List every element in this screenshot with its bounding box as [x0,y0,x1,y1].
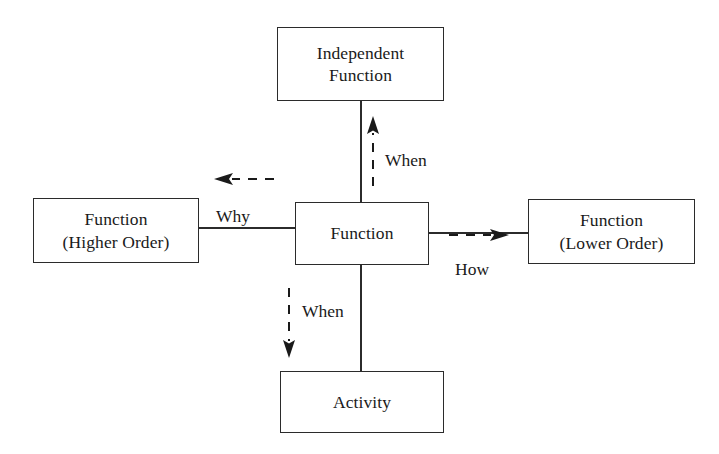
node-label-line-1: Independent [317,42,405,64]
arrow-up-dashed-icon [366,116,380,188]
edge-label-when-up: When [385,152,427,170]
node-independent-function[interactable]: Independent Function [277,27,444,101]
edge-label-when-down: When [302,303,344,321]
edge-label-how: How [455,261,489,279]
node-function-lower-order[interactable]: Function (Lower Order) [528,199,695,264]
node-label-line-2: Function [329,64,392,86]
node-label-line-2: (Higher Order) [63,231,170,253]
diagram-canvas: Independent Function Function (Higher Or… [0,0,719,454]
connector-center-to-higher-order [197,227,297,229]
node-label-line-2: (Lower Order) [560,232,664,254]
connector-center-to-independent [360,100,362,204]
node-label-line-1: Function [330,222,393,244]
arrow-left-dashed-icon [214,172,276,186]
arrow-right-dashed-icon [447,228,509,242]
node-function-higher-order[interactable]: Function (Higher Order) [33,198,199,263]
arrow-down-dashed-icon [282,286,296,358]
node-label-line-1: Activity [333,391,391,413]
node-function-center[interactable]: Function [295,202,429,265]
connector-center-to-activity [360,263,362,373]
node-label-line-1: Function [84,208,147,230]
node-activity[interactable]: Activity [280,371,444,433]
node-label-line-1: Function [580,209,643,231]
edge-label-why: Why [216,208,250,226]
